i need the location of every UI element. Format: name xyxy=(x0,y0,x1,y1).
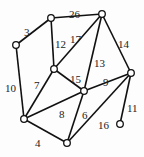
edge-weight-label: 15 xyxy=(70,73,82,85)
node-B xyxy=(99,11,106,18)
node-H xyxy=(64,140,71,147)
graph-svg: 263121713141071589616411 xyxy=(0,0,144,157)
node-F xyxy=(81,88,88,95)
edge-weight-label: 14 xyxy=(118,38,130,50)
edge-weight-label: 12 xyxy=(55,38,66,50)
edge-weight-label: 11 xyxy=(127,102,138,114)
edge-weight-label: 26 xyxy=(69,8,81,20)
edge-E-I xyxy=(120,73,131,124)
edge-weight-label: 3 xyxy=(24,26,30,38)
edge-weight-label: 7 xyxy=(34,79,40,91)
node-D xyxy=(51,66,58,73)
edge-B-F xyxy=(84,14,102,91)
edge-weight-label: 6 xyxy=(82,109,88,121)
edge-weight-label: 8 xyxy=(59,108,65,120)
node-E xyxy=(128,70,135,77)
edge-G-H xyxy=(24,119,67,143)
edge-weight-label: 17 xyxy=(70,33,82,45)
node-I xyxy=(117,121,124,128)
edge-weight-label: 9 xyxy=(103,76,109,88)
node-A xyxy=(48,15,55,22)
edge-weight-label: 10 xyxy=(5,82,17,94)
edge-weight-label: 16 xyxy=(98,119,110,131)
edge-weight-label: 4 xyxy=(35,137,41,149)
edge-C-G xyxy=(16,45,24,119)
edge-weight-label: 13 xyxy=(94,57,106,69)
edge-A-D xyxy=(51,18,54,69)
node-G xyxy=(21,116,28,123)
node-C xyxy=(13,42,20,49)
graph-diagram: 263121713141071589616411 xyxy=(0,0,144,157)
edge-A-C xyxy=(16,18,51,45)
